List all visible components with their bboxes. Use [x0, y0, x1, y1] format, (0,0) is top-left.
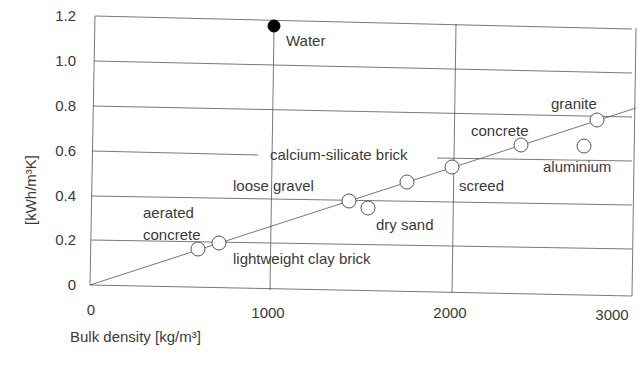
- point-aluminium: [577, 139, 591, 153]
- svg-text:1000: 1000: [251, 304, 284, 321]
- point-granite: [590, 113, 604, 127]
- svg-text:screed: screed: [459, 177, 504, 194]
- point-water: [268, 20, 280, 32]
- svg-text:0.6: 0.6: [55, 142, 76, 159]
- svg-text:3000: 3000: [595, 306, 628, 323]
- svg-text:2000: 2000: [433, 304, 466, 321]
- svg-text:dry sand: dry sand: [376, 216, 434, 233]
- svg-text:0: 0: [68, 276, 76, 293]
- x-axis-label: Bulk density [kg/m³]: [70, 328, 201, 345]
- svg-text:loose gravel: loose gravel: [233, 177, 314, 194]
- point-lightweight-clay-brick: [212, 236, 226, 250]
- svg-text:0.2: 0.2: [55, 231, 76, 248]
- y-axis-label: [kWh/m³K]: [22, 155, 39, 225]
- svg-text:0.4: 0.4: [55, 187, 76, 204]
- chart: 1.2 1.0 0.8 0.6 0.4 0.2 0 0 1000 2000 30…: [0, 0, 642, 380]
- svg-text:aerated: aerated: [143, 204, 194, 221]
- svg-text:0: 0: [87, 301, 95, 318]
- svg-text:Water: Water: [286, 32, 325, 49]
- y-axis-ticks: 1.2 1.0 0.8 0.6 0.4 0.2 0: [55, 7, 76, 293]
- point-loose-gravel: [342, 194, 356, 208]
- svg-text:concrete: concrete: [471, 122, 529, 139]
- point-concrete: [514, 138, 528, 152]
- point-calcium-silicate-brick: [400, 175, 414, 189]
- point-screed: [445, 160, 459, 174]
- svg-text:1.0: 1.0: [55, 52, 76, 69]
- x-axis-ticks: 0 1000 2000 3000: [87, 301, 629, 323]
- point-dry-sand: [361, 201, 375, 215]
- svg-text:1.2: 1.2: [55, 7, 76, 24]
- svg-text:lightweight clay brick: lightweight clay brick: [233, 250, 371, 267]
- svg-text:calcium-silicate brick: calcium-silicate brick: [270, 146, 408, 163]
- svg-text:granite: granite: [551, 95, 597, 112]
- point-aerated-concrete: [191, 242, 205, 256]
- svg-text:0.8: 0.8: [55, 97, 76, 114]
- svg-text:aluminium: aluminium: [543, 158, 611, 175]
- svg-text:concrete: concrete: [143, 226, 201, 243]
